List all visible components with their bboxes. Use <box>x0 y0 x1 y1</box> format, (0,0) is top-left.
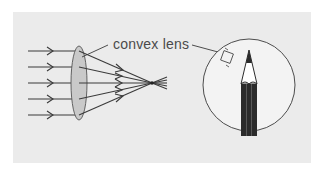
label-leader-right <box>192 45 218 52</box>
label-leader-left <box>82 45 108 57</box>
refracted-rays <box>79 51 167 115</box>
convex-lens-label: convex lens <box>113 36 189 52</box>
lens-diagram <box>0 0 322 170</box>
focal-point <box>150 81 154 85</box>
